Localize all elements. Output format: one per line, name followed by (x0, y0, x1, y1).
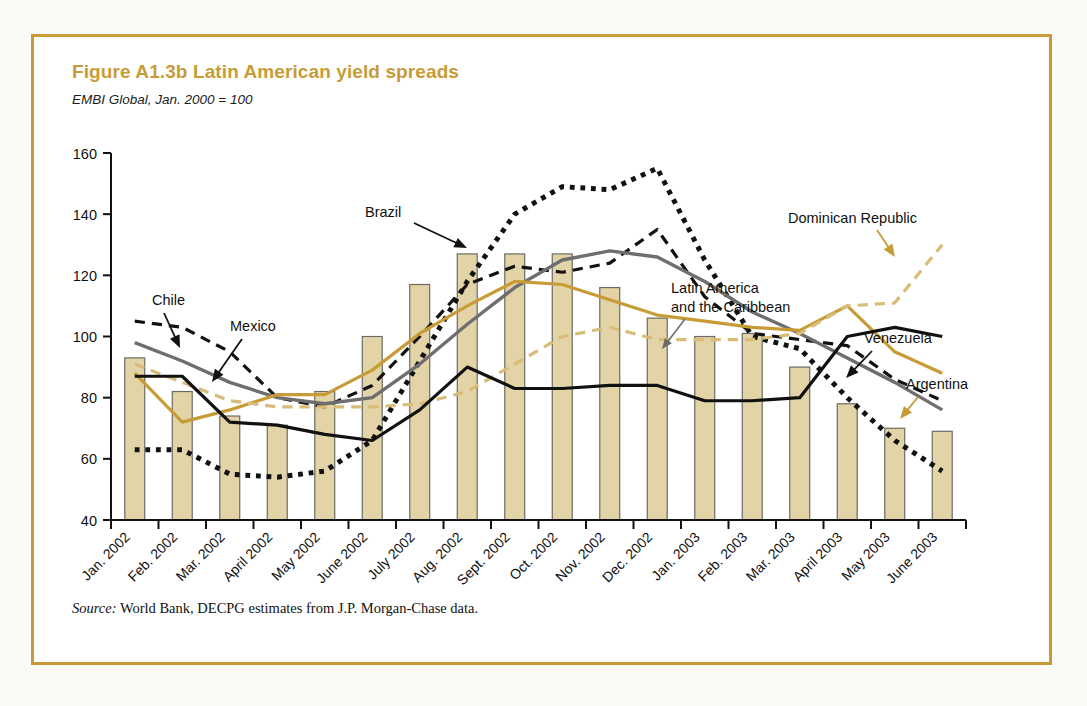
source-text: World Bank, DECPG estimates from J.P. Mo… (120, 600, 478, 616)
source-note: Source: World Bank, DECPG estimates from… (72, 600, 478, 617)
x-axis-label: Feb. 2002 (124, 529, 180, 585)
x-axis-label: June 2002 (313, 529, 371, 587)
annotation-label-latin-america-line1: Latin America (671, 280, 760, 296)
annotation-label-dominican-republic: Dominican Republic (788, 210, 917, 226)
annotation-label-chile: Chile (152, 292, 185, 308)
x-axis-label: April 2003 (789, 529, 845, 585)
x-axis-label: Jan. 2002 (78, 529, 133, 584)
source-label: Source: (72, 600, 117, 616)
bar (932, 431, 952, 520)
y-axis-label: 40 (81, 513, 97, 529)
annotation-leader (414, 223, 461, 245)
x-axis-label: Feb. 2003 (694, 529, 750, 585)
bar (220, 416, 240, 520)
bar (647, 318, 667, 520)
bar (695, 337, 715, 521)
bar (600, 288, 620, 520)
y-axis-label: 100 (73, 329, 97, 345)
x-axis-labels: Jan. 2002Feb. 2002Mar. 2002April 2002May… (78, 529, 940, 588)
x-axis-label: Dec. 2002 (599, 529, 656, 586)
x-axis-label: Jan. 2003 (648, 529, 703, 584)
annotation-label-latin-america-line2: and the Caribbean (671, 299, 790, 315)
yield-spreads-chart: 160140120100806040 Jan. 2002Feb. 2002Mar… (34, 37, 1049, 662)
x-axis-label: Oct. 2002 (506, 529, 560, 583)
x-axis-label: June 2003 (883, 529, 941, 587)
x-axis-label: Mar. 2003 (743, 529, 798, 584)
chart-plot-area: 160140120100806040 Jan. 2002Feb. 2002Mar… (34, 37, 1049, 662)
y-axis-labels: 160140120100806040 (73, 146, 97, 529)
x-axis-label: Nov. 2002 (552, 529, 608, 585)
y-axis-label: 120 (73, 268, 97, 284)
annotation-label-venezuela: Venezuela (864, 330, 933, 346)
annotation-label-brazil: Brazil (365, 204, 401, 220)
y-axis-label: 140 (73, 207, 97, 223)
x-axis-label: Mar. 2002 (173, 529, 228, 584)
figure-card: Figure A1.3b Latin American yield spread… (31, 34, 1052, 665)
y-axis-label: 80 (81, 390, 97, 406)
x-axis-label: April 2002 (219, 529, 275, 585)
annotation-label-argentina: Argentina (906, 376, 969, 392)
bar (837, 404, 857, 520)
annotation-arrowhead (884, 244, 895, 257)
y-axis-label: 60 (81, 451, 97, 467)
bar (315, 392, 335, 520)
annotation-label-mexico: Mexico (230, 318, 276, 334)
y-axis-label: 160 (73, 146, 97, 162)
bar (267, 425, 287, 520)
bar (742, 333, 762, 520)
